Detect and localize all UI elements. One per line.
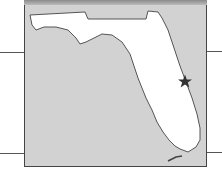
florida-map xyxy=(0,0,222,180)
florida-outline xyxy=(30,11,200,152)
keys-islands xyxy=(168,156,182,161)
